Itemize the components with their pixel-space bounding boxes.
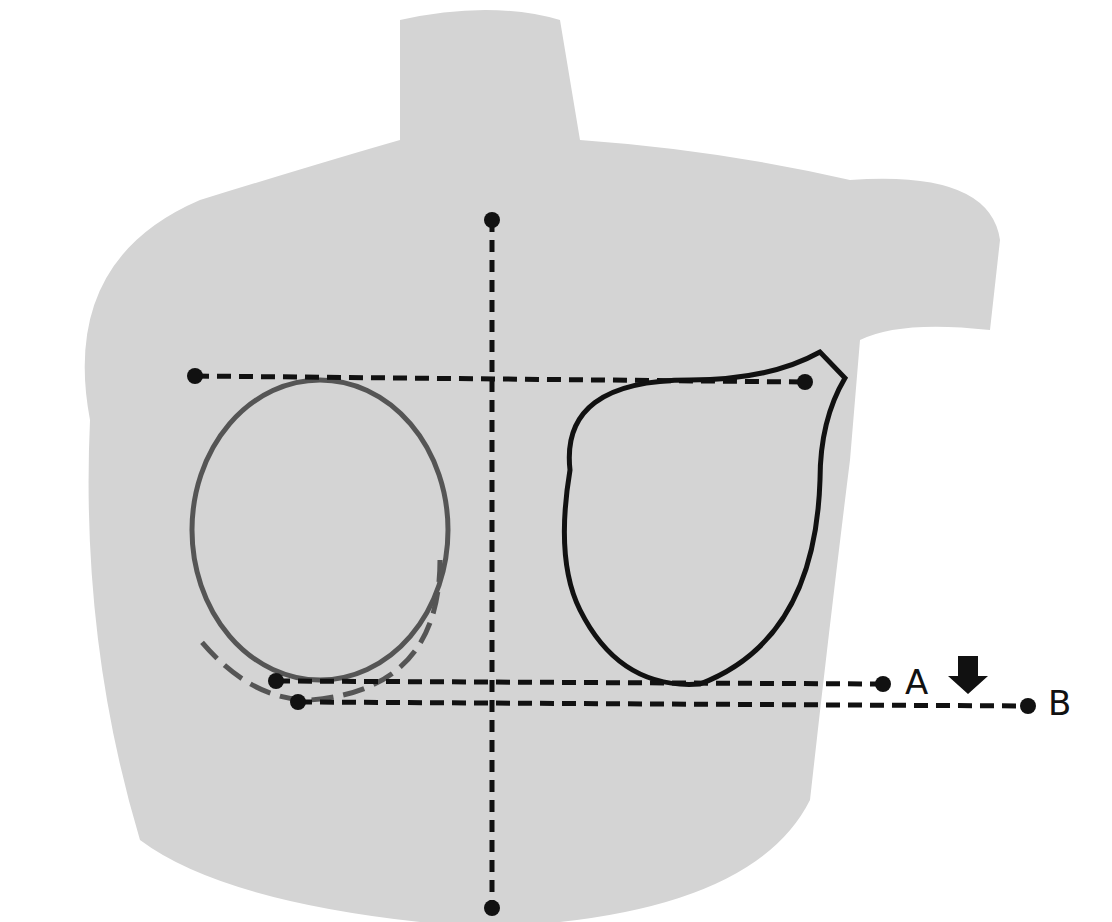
upper-line-left-point [187,368,203,384]
down-arrow-icon [948,656,988,694]
diagram-canvas [0,0,1112,922]
label-b: B [1048,683,1071,723]
upper-line-right-point [797,374,813,390]
line-a-left-point [268,673,284,689]
torso-silhouette [85,10,1000,922]
line-b-left-point [290,694,306,710]
label-a: A [905,662,928,702]
midline-top-point [484,212,500,228]
midline-bottom-point [484,900,500,916]
line-a-right-point [875,676,891,692]
line-b-right-point [1020,698,1036,714]
